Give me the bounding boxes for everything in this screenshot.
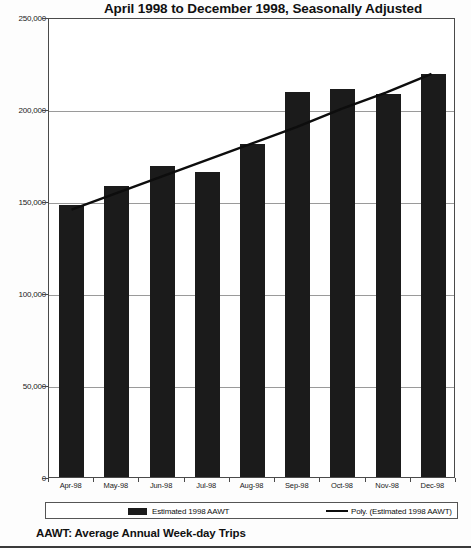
x-axis-tick-label: Sep-98 xyxy=(274,481,319,490)
page-title: April 1998 to December 1998, Seasonally … xyxy=(58,0,468,20)
legend-bar-label: Estimated 1998 AAWT xyxy=(152,507,229,516)
x-axis-tick-label: Dec-98 xyxy=(410,481,455,490)
x-axis-tick-label: Jul-98 xyxy=(184,481,229,490)
x-axis-tick xyxy=(455,478,456,482)
chart-legend: Estimated 1998 AAWT Poly. (Estimated 199… xyxy=(45,502,458,519)
x-axis-tick-label: Nov-98 xyxy=(365,481,410,490)
x-axis-tick-label: Jun-98 xyxy=(138,481,183,490)
x-axis-tick-label: Oct-98 xyxy=(319,481,364,490)
legend-line-swatch-icon xyxy=(326,510,348,513)
footnote-rule xyxy=(0,546,471,548)
x-axis-tick-label: May-98 xyxy=(93,481,138,490)
y-axis-ticks xyxy=(0,18,48,478)
plot-area xyxy=(48,18,455,478)
chart-page: April 1998 to December 1998, Seasonally … xyxy=(0,0,471,550)
legend-item-line: Poly. (Estimated 1998 AAWT) xyxy=(326,505,452,517)
x-axis-tick-label: Apr-98 xyxy=(48,481,93,490)
legend-item-bar: Estimated 1998 AAWT xyxy=(128,505,229,517)
x-axis-tick-label: Aug-98 xyxy=(229,481,274,490)
legend-bar-swatch-icon xyxy=(128,508,147,515)
legend-line-label: Poly. (Estimated 1998 AAWT) xyxy=(351,507,452,516)
x-axis-labels: Apr-98May-98Jun-98Jul-98Aug-98Sep-98Oct-… xyxy=(48,481,455,497)
footnote: AAWT: Average Annual Week-day Trips xyxy=(36,527,246,539)
trendline-series-poly-estimated-1998-aawt xyxy=(49,19,454,477)
